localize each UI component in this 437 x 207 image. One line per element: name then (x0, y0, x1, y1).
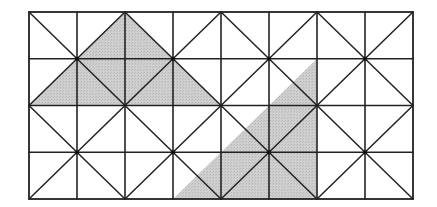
center-vertex-dot (171, 150, 175, 154)
center-vertex-dot (267, 57, 271, 61)
triangle-grid-diagram (0, 0, 437, 207)
center-vertex-dot (75, 150, 79, 154)
center-vertex-dot (363, 57, 367, 61)
center-vertex-dot (267, 150, 271, 154)
center-vertex-dot (75, 57, 79, 61)
center-vertex-dot (363, 150, 367, 154)
center-vertex-dot (171, 57, 175, 61)
